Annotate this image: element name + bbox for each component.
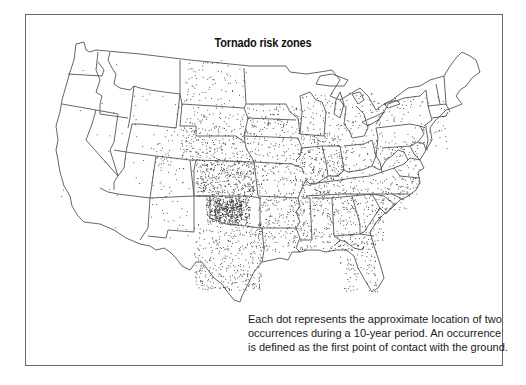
caption-line-2: occurrences during a 10-year period. An … [248,326,500,340]
state-outlines [56,42,480,302]
caption-line-3: is defined as the first point of contact… [248,340,500,354]
caption-line-1: Each dot represents the approximate loca… [248,312,500,326]
map-title: Tornado risk zones [32,36,495,50]
map-caption: Each dot represents the approximate loca… [248,312,500,354]
us-outline [56,42,480,302]
tornado-dots [61,60,448,292]
